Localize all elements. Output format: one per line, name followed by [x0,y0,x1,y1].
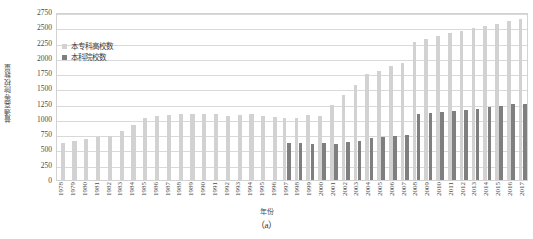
bar-group [423,14,435,180]
x-axis-tick-label: 1982 [106,182,113,196]
y-axis-tick-label: 2500 [37,24,52,32]
x-axis-tick-label: 1998 [294,182,301,196]
x-axis-tick-label: 1978 [58,182,65,196]
bar-total [448,33,452,180]
y-axis-ticks: 2750250022502000175015001250100075050025… [14,0,54,190]
legend-label: 本专科高校数 [71,41,113,52]
bar-total [354,85,358,180]
bar-total [155,116,159,180]
bar-group [482,14,494,180]
y-axis-tick-label: 0 [48,177,52,185]
bar-group [187,14,199,180]
legend-item: 本专科高校数 [62,41,113,52]
bar-total [295,118,299,180]
bar-group [494,14,506,180]
bar-group [210,14,222,180]
bar-total [436,36,440,180]
x-axis-tick-label: 1985 [141,182,148,196]
bar-total [483,26,487,180]
bar-group [364,14,376,180]
x-axis-tick-label: 1994 [247,182,254,196]
x-axis-tick-label: 2013 [471,182,478,196]
bar-total [120,131,124,180]
bar-undergraduate [452,111,456,180]
bar-group [399,14,411,180]
x-axis-tick-label: 1991 [212,182,219,196]
bar-undergraduate [393,136,397,180]
y-axis-tick-label: 500 [41,146,52,154]
bar-undergraduate [299,143,303,180]
bar-total [226,116,230,180]
y-axis-tick-label: 2750 [37,9,52,17]
bar-total [507,21,511,180]
bar-total [318,116,322,180]
x-axis-tick-label: 1990 [200,182,207,196]
bar-total [342,95,346,180]
plot-area [56,13,528,181]
bar-total [273,117,277,180]
bar-total [96,137,100,180]
x-axis-tick-label: 2003 [353,182,360,196]
x-axis-tick-label: 2008 [412,182,419,196]
bar-group [199,14,211,180]
bar-group [340,14,352,180]
bar-total [261,116,265,180]
x-axis-tick-label: 2016 [507,182,514,196]
bar-group [293,14,305,180]
bar-group [269,14,281,180]
y-axis-tick-label: 250 [41,162,52,170]
bar-group [387,14,399,180]
bar-group [305,14,317,180]
x-axis-tick-label: 2011 [448,182,455,196]
x-axis-tick-label: 1993 [235,182,242,196]
bar-group [435,14,447,180]
bar-group [246,14,258,180]
x-axis-tick-label: 1979 [70,182,77,196]
bar-undergraduate [499,106,503,180]
bar-total [495,24,499,180]
bar-group [81,14,93,180]
bar-group [222,14,234,180]
bar-group [505,14,517,180]
x-axis-tick-label: 1981 [94,182,101,196]
bar-undergraduate [464,110,468,180]
legend-swatch-icon [62,44,67,49]
x-axis-tick-label: 2004 [365,182,372,196]
x-axis-tick-label: 1988 [176,182,183,196]
bar-total [377,71,381,180]
bar-group [458,14,470,180]
bar-total [131,125,135,180]
y-axis-tick-label: 2250 [37,40,52,48]
legend: 本专科高校数本科院校数 [62,41,113,63]
x-axis-tick-label: 2010 [436,182,443,196]
bar-total [84,139,88,180]
bar-group [140,14,152,180]
bar-total [190,114,194,180]
bar-group [517,14,529,180]
bar-group [411,14,423,180]
bar-group [104,14,116,180]
bar-total [424,39,428,180]
bar-group [175,14,187,180]
bar-undergraduate [488,107,492,180]
x-axis-title: 年份 [0,206,533,216]
bar-group [317,14,329,180]
x-axis-tick-label: 1995 [259,182,266,196]
bar-total [519,19,523,180]
bar-group [258,14,270,180]
bar-total [202,114,206,180]
bar-total [472,28,476,180]
bar-group [470,14,482,180]
x-axis-tick-label: 2006 [389,182,396,196]
bar-group [352,14,364,180]
bar-total [179,114,183,180]
y-axis-tick-label: 750 [41,131,52,139]
bar-total [238,115,242,180]
bar-undergraduate [405,135,409,180]
bar-undergraduate [523,104,527,180]
y-axis-tick-label: 1250 [37,101,52,109]
x-axis-tick-label: 1984 [129,182,136,196]
bar-total [72,141,76,180]
x-axis-tick-label: 2002 [342,182,349,196]
x-axis-tick-label: 2015 [495,182,502,196]
